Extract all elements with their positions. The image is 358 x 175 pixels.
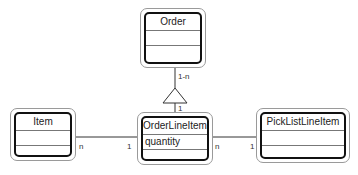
class-item-body: Item xyxy=(14,112,72,157)
class-order-line-item[interactable]: OrderLineItem quantity xyxy=(137,112,213,165)
class-pick-list-line-item[interactable]: PickListLineItem xyxy=(256,108,350,163)
class-operations xyxy=(146,46,200,62)
class-attributes xyxy=(16,131,70,146)
class-operations xyxy=(16,146,70,155)
multiplicity-oli-top: 1 xyxy=(178,104,182,113)
class-attributes: quantity xyxy=(143,135,207,150)
inheritance-triangle-icon xyxy=(163,88,187,103)
class-order-line-item-body: OrderLineItem quantity xyxy=(141,116,209,161)
class-name: Item xyxy=(16,114,70,131)
class-item[interactable]: Item xyxy=(10,108,76,161)
multiplicity-oli-right: n xyxy=(215,142,219,151)
class-order-body: Order xyxy=(144,12,202,64)
class-pick-list-line-item-body: PickListLineItem xyxy=(260,112,346,159)
class-order[interactable]: Order xyxy=(140,8,206,68)
multiplicity-order: 1-n xyxy=(178,72,190,81)
class-name: OrderLineItem xyxy=(143,118,207,135)
class-name: PickListLineItem xyxy=(262,114,344,131)
multiplicity-plli: 1 xyxy=(250,142,254,151)
multiplicity-oli-left: 1 xyxy=(127,142,131,151)
class-name: Order xyxy=(146,14,200,31)
multiplicity-item: n xyxy=(79,142,83,151)
class-operations xyxy=(143,150,207,159)
class-attributes xyxy=(262,131,344,146)
class-attributes xyxy=(146,31,200,46)
class-operations xyxy=(262,146,344,157)
